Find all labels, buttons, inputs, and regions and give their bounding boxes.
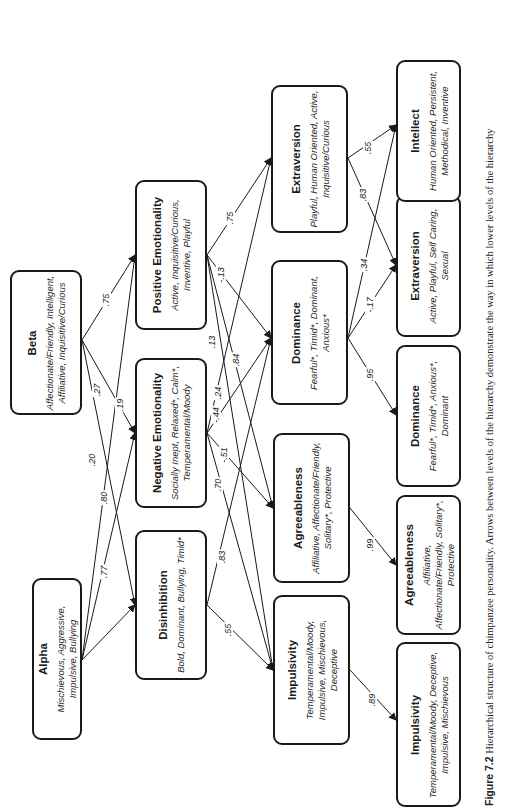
trait-title: Alpha: [36, 643, 50, 675]
trait-box-content: AlphaMischievous, Aggressive, Impulsive,…: [36, 583, 79, 735]
edge-weight-label: -.17: [365, 296, 375, 314]
trait-title: Dominance: [288, 302, 302, 364]
edge-weight-label: .55: [363, 141, 373, 156]
trait-descriptors: Active, Playful, Self Caring, Sexual: [426, 200, 450, 332]
trait-box-agreeableness4: AgreeablenessAffiliative, Affectionate/F…: [396, 495, 461, 635]
trait-descriptors: Mischievous, Aggressive, Impulsive, Bull…: [55, 583, 79, 735]
trait-descriptors: Fearful*, Timid*, Anxious*, Dominant: [426, 350, 450, 482]
trait-title: Extraversion: [407, 231, 421, 301]
edge-weight-label: .99: [365, 538, 375, 553]
trait-title: Agreeableness: [290, 467, 304, 549]
edge-arrow-beta-to-neg-emo: [82, 340, 135, 433]
trait-descriptors: Temperamental/Moody, Deceptive, Impulsiv…: [426, 647, 450, 802]
trait-box-content: ImpulsivityTemperamental/Moody, Deceptiv…: [407, 647, 450, 802]
trait-descriptors: Socially Inept, Relaxed*, Calm*, Tempera…: [169, 363, 193, 503]
trait-box-neg-emo: Negative EmotionalitySocially Inept, Rel…: [135, 358, 207, 508]
trait-box-content: ExtraversionActive, Playful, Self Caring…: [407, 200, 450, 332]
edge-weight-label: .80: [99, 491, 109, 506]
edge-weight-label: .20: [87, 453, 97, 468]
edge-weight-label: .84: [231, 353, 241, 368]
trait-descriptors: Affiliative, Affectionate/Friendly, Soli…: [309, 438, 333, 578]
edge-weight-label: .95: [365, 368, 375, 383]
trait-box-impulsivity4: ImpulsivityTemperamental/Moody, Deceptiv…: [396, 642, 461, 807]
trait-title: Beta: [25, 330, 39, 355]
trait-box-pos-emo: Positive EmotionalityActive, Inquisitive…: [135, 180, 207, 330]
edge-weight-label: .24: [213, 386, 223, 401]
figure-caption: Figure 7.2 Hierarchical structure of chi…: [483, 6, 495, 806]
trait-title: Intellect: [407, 109, 421, 152]
trait-box-alpha: AlphaMischievous, Aggressive, Impulsive,…: [32, 578, 82, 740]
edge-arrow-agreeableness3-to-agreeableness4: [350, 508, 396, 565]
trait-box-content: ExtraversionPlayful, Human Oriented, Act…: [288, 90, 331, 228]
edge-weight-label: .77: [99, 565, 109, 580]
trait-box-content: ImpulsivityTemperamental/Moody, Impulsiv…: [284, 600, 339, 740]
trait-box-content: IntellectHuman Oriented, Persistent, Met…: [407, 65, 450, 197]
trait-title: Impulsivity: [407, 694, 421, 754]
trait-box-impulsivity3: ImpulsivityTemperamental/Moody, Impulsiv…: [273, 595, 350, 745]
trait-title: Disinhibition: [156, 570, 170, 640]
trait-title: Dominance: [407, 385, 421, 447]
edge-weight-label: .83: [217, 550, 227, 565]
trait-descriptors: Temperamental/Moody, Impulsive, Mischiev…: [303, 600, 339, 740]
trait-box-agreeableness3: AgreeablenessAffiliative, Affectionate/F…: [273, 433, 350, 583]
edge-arrow-extraversion3-to-extraversion4: [348, 158, 396, 265]
edge-weight-label: .13: [207, 335, 217, 350]
edge-weight-label: .75: [225, 211, 235, 226]
trait-box-content: DominanceFearful*, Timid*, Dominant, Anx…: [288, 265, 331, 400]
trait-descriptors: Playful, Human Oriented, Active, Inquisi…: [307, 90, 331, 228]
edge-weight-label: .55: [223, 623, 233, 638]
edge-arrow-pos-emo-to-extraversion3: [207, 158, 271, 255]
trait-box-content: DominanceFearful*, Timid*, Anxious*, Dom…: [407, 350, 450, 482]
trait-title: Impulsivity: [284, 640, 298, 700]
figure-caption-text: Hierarchical structure of chimpanzee per…: [484, 128, 495, 756]
trait-box-disinhibition: DisinhibitionBold, Dominant, Bullying, T…: [135, 530, 207, 680]
edge-weight-label: -.13: [216, 266, 226, 284]
trait-title: Agreeableness: [401, 524, 415, 606]
edge-weight-label: .70: [213, 478, 223, 493]
trait-title: Negative Emotionality: [150, 373, 164, 493]
trait-descriptors: Affectionate/Friendly, Intelligent, Affi…: [44, 275, 68, 410]
edge-weight-label: .83: [358, 188, 368, 203]
trait-box-dominance4: DominanceFearful*, Timid*, Anxious*, Dom…: [396, 345, 461, 487]
trait-box-extraversion4: ExtraversionActive, Playful, Self Caring…: [396, 195, 461, 337]
edge-weight-label: .89: [367, 693, 377, 708]
trait-box-content: Positive EmotionalityActive, Inquisitive…: [150, 185, 193, 325]
figure-caption-label: Figure 7.2: [483, 756, 495, 806]
trait-descriptors: Bold, Dominant, Bullying, Timid*: [175, 537, 187, 673]
edge-arrow-alpha-to-disinhibition: [82, 605, 135, 660]
trait-box-dominance3: DominanceFearful*, Timid*, Dominant, Anx…: [271, 260, 348, 405]
trait-box-content: Negative EmotionalitySocially Inept, Rel…: [150, 363, 193, 503]
edge-weight-label: .75: [101, 293, 111, 308]
trait-descriptors: Fearful*, Timid*, Dominant, Anxious*: [307, 265, 331, 400]
edge-arrow-pos-emo-to-impulsivity3: [207, 255, 273, 670]
personality-hierarchy-diagram: AlphaMischievous, Aggressive, Impulsive,…: [0, 0, 505, 812]
trait-descriptors: Active, Inquisitive/Curious, Inventive, …: [169, 185, 193, 325]
edge-arrow-disinhibition-to-impulsivity3: [207, 605, 273, 670]
trait-box-content: DisinhibitionBold, Dominant, Bullying, T…: [156, 535, 187, 675]
trait-descriptors: Human Oriented, Persistent, Methodical, …: [426, 65, 450, 197]
trait-box-intellect4: IntellectHuman Oriented, Persistent, Met…: [396, 60, 461, 202]
edge-weight-label: .19: [115, 398, 125, 413]
trait-box-beta: BetaAffectionate/Friendly, Intelligent, …: [10, 270, 82, 415]
trait-box-content: AgreeablenessAffiliative, Affectionate/F…: [401, 500, 456, 630]
edge-weight-label: .27: [92, 383, 102, 398]
trait-title: Positive Emotionality: [150, 197, 164, 313]
trait-box-content: AgreeablenessAffiliative, Affectionate/F…: [290, 438, 333, 578]
trait-title: Extraversion: [288, 124, 302, 194]
edge-weight-label: .34: [359, 258, 369, 273]
trait-box-content: BetaAffectionate/Friendly, Intelligent, …: [25, 275, 68, 410]
trait-descriptors: Affiliative, Affectionate/Friendly, Soli…: [420, 500, 456, 630]
edge-weight-label: -.44: [211, 406, 221, 424]
edge-weight-label: -.51: [219, 446, 229, 464]
trait-box-extraversion3: ExtraversionPlayful, Human Oriented, Act…: [271, 85, 348, 233]
